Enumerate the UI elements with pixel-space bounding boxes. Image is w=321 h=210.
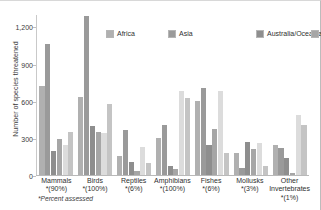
category-percent: *(90%) — [37, 185, 76, 193]
bar — [245, 142, 250, 175]
x-axis-category: Mollusks*(3%) — [230, 177, 269, 202]
bar — [263, 166, 268, 175]
category-percent: *(1%) — [269, 194, 310, 202]
category-percent: *(6%) — [192, 185, 231, 193]
legend-item[interactable]: Australia/Oceania — [256, 30, 311, 38]
bar — [134, 171, 139, 175]
category-percent: *(6%) — [114, 185, 153, 193]
bar — [45, 44, 50, 175]
bar — [51, 151, 56, 175]
bar — [90, 126, 95, 175]
bar — [206, 145, 211, 175]
bar — [195, 101, 200, 175]
legend-label: Africa — [117, 30, 135, 37]
x-axis-category: Reptiles*(6%) — [114, 177, 153, 202]
bar — [234, 153, 239, 175]
y-tick-mark — [33, 139, 36, 140]
legend-swatch-icon — [168, 30, 176, 38]
legend-swatch-icon — [256, 30, 264, 38]
bar — [296, 115, 301, 175]
bar — [301, 125, 306, 175]
y-tick-label: 300 — [21, 135, 33, 142]
bar — [68, 132, 73, 175]
y-tick-mark — [33, 65, 36, 66]
category-percent: *(100%) — [153, 185, 192, 193]
y-tick-label: 900 — [21, 61, 33, 68]
chart-footnote: *Percent assessed — [38, 195, 93, 202]
bar — [96, 132, 101, 175]
bar — [173, 169, 178, 175]
bar — [179, 91, 184, 175]
y-tick-label: 1,200 — [15, 24, 33, 31]
bar — [101, 133, 106, 175]
bar — [162, 125, 167, 175]
legend-item[interactable]: Europe — [311, 30, 321, 38]
bar — [278, 148, 283, 175]
bar — [212, 129, 217, 175]
bar — [78, 97, 83, 175]
x-axis-line — [36, 175, 309, 176]
legend-item[interactable]: Africa — [106, 30, 168, 38]
legend-item[interactable]: Asia — [168, 30, 256, 38]
bar-group — [37, 15, 76, 175]
bar — [201, 88, 206, 175]
x-axis-category: Amphibians*(100%) — [153, 177, 192, 202]
legend-label: Asia — [179, 30, 193, 37]
bar — [57, 139, 62, 175]
y-axis-title: Number of species threatened — [12, 19, 20, 159]
category-name: Mammals — [41, 177, 71, 184]
category-percent: *(100%) — [76, 185, 115, 193]
bar — [39, 86, 44, 175]
bar — [224, 153, 229, 175]
bar — [129, 162, 134, 175]
bar — [146, 163, 151, 175]
chart-figure: Number of species threatened 03006009001… — [0, 0, 321, 210]
bar — [140, 147, 145, 175]
bar — [156, 138, 161, 175]
category-name: Mollusks — [236, 177, 263, 184]
bar — [168, 166, 173, 175]
bar — [117, 156, 122, 175]
category-name: Birds — [87, 177, 103, 184]
bar — [273, 145, 278, 175]
y-tick-mark — [33, 27, 36, 28]
bar — [257, 143, 262, 175]
category-percent: *(3%) — [230, 185, 269, 193]
bar — [185, 98, 190, 175]
bar — [123, 130, 128, 175]
y-tick-mark — [33, 102, 36, 103]
bar — [218, 91, 223, 175]
y-tick-label: 600 — [21, 98, 33, 105]
bar — [251, 149, 256, 175]
legend-swatch-icon — [311, 30, 319, 38]
y-tick-mark — [33, 176, 36, 177]
category-name: Amphibians — [154, 177, 191, 184]
bar — [84, 16, 89, 175]
bar — [239, 168, 244, 175]
category-name: Reptiles — [121, 177, 146, 184]
bar — [290, 173, 295, 175]
x-axis-category: Fishes*(6%) — [192, 177, 231, 202]
category-name: Other Invertebrates — [269, 177, 310, 192]
chart-legend: AfricaAsiaAustralia/OceaniaEuropeNorth A… — [106, 27, 311, 40]
bar — [107, 104, 112, 175]
bar — [284, 158, 289, 175]
x-axis-category: Other Invertebrates*(1%) — [269, 177, 310, 202]
category-name: Fishes — [201, 177, 222, 184]
bar — [63, 145, 68, 175]
legend-swatch-icon — [106, 30, 114, 38]
